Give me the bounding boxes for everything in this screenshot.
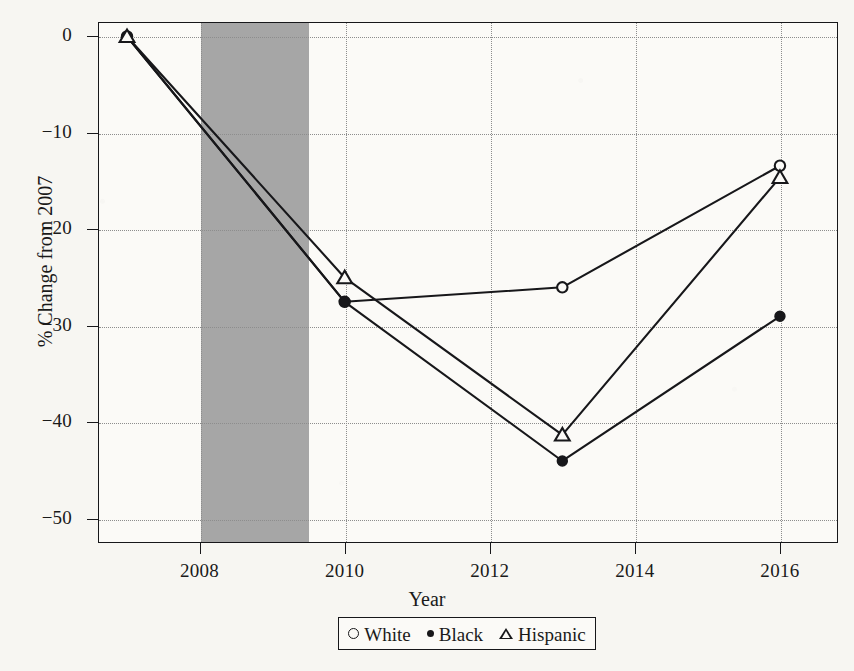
y-tick-mark--50 [87,519,98,520]
gridline-y--30 [99,327,837,328]
x-tick-mark-2010 [345,543,346,554]
x-tick-label-2008: 2008 [155,560,245,582]
y-tick-mark--10 [87,133,98,134]
legend-entry-white: White [348,624,410,643]
x-tick-label-2012: 2012 [445,560,535,582]
gridline-x-2012 [491,23,492,542]
y-tick-mark-0 [87,36,98,37]
gridline-y--20 [99,230,837,231]
y-tick-mark--40 [87,422,98,423]
legend-open-triangle-icon [499,628,513,639]
x-tick-label-2016: 2016 [735,560,825,582]
plot-area [98,22,838,543]
x-tick-mark-2016 [780,543,781,554]
gridline-y-0 [99,37,837,38]
chart-figure: 0−10−20−30−40−50 20082010201220142016 % … [0,0,854,671]
gridline-x-2008 [201,23,202,542]
legend-label-hispanic: Hispanic [518,625,586,644]
x-tick-mark-2014 [635,543,636,554]
y-tick-mark--30 [87,326,98,327]
legend-label-black: Black [439,625,483,644]
y-tick-label--50: −50 [10,508,72,527]
x-tick-mark-2012 [490,543,491,554]
gridline-x-2016 [781,23,782,542]
legend-entry-hispanic: Hispanic [499,624,586,643]
legend-filled-circle-icon [427,630,434,637]
recession-shaded-band [201,23,310,542]
gridline-y--40 [99,423,837,424]
legend-open-circle-icon [348,628,359,639]
y-tick-label-0: 0 [10,25,72,44]
y-axis-title: % Change from 2007 [34,97,57,427]
y-tick-mark--20 [87,229,98,230]
gridline-y--10 [99,134,837,135]
chart-legend: WhiteBlackHispanic [338,617,596,650]
x-tick-mark-2008 [200,543,201,554]
x-tick-label-2010: 2010 [300,560,390,582]
gridline-x-2010 [346,23,347,542]
x-axis-title: Year [0,588,854,611]
legend-label-white: White [364,625,410,644]
gridline-y--50 [99,520,837,521]
gridline-x-2014 [636,23,637,542]
x-tick-label-2014: 2014 [590,560,680,582]
legend-entry-black: Black [427,624,483,643]
